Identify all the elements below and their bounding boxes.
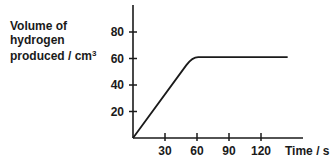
x-tick-label: 120 (251, 144, 271, 158)
x-tick-label: 30 (158, 144, 172, 158)
x-ticks: 306090120 (158, 133, 271, 158)
x-tick-label: 90 (222, 144, 236, 158)
y-tick-label: 80 (111, 25, 125, 39)
y-tick-label: 60 (111, 52, 125, 66)
axes (133, 5, 303, 138)
y-tick-label: 40 (111, 78, 125, 92)
line-chart: 20406080 306090120 Time / s (0, 0, 332, 161)
y-tick-label: 20 (111, 105, 125, 119)
data-line (133, 57, 288, 138)
x-tick-label: 60 (190, 144, 204, 158)
x-axis-label: Time / s (285, 144, 330, 158)
